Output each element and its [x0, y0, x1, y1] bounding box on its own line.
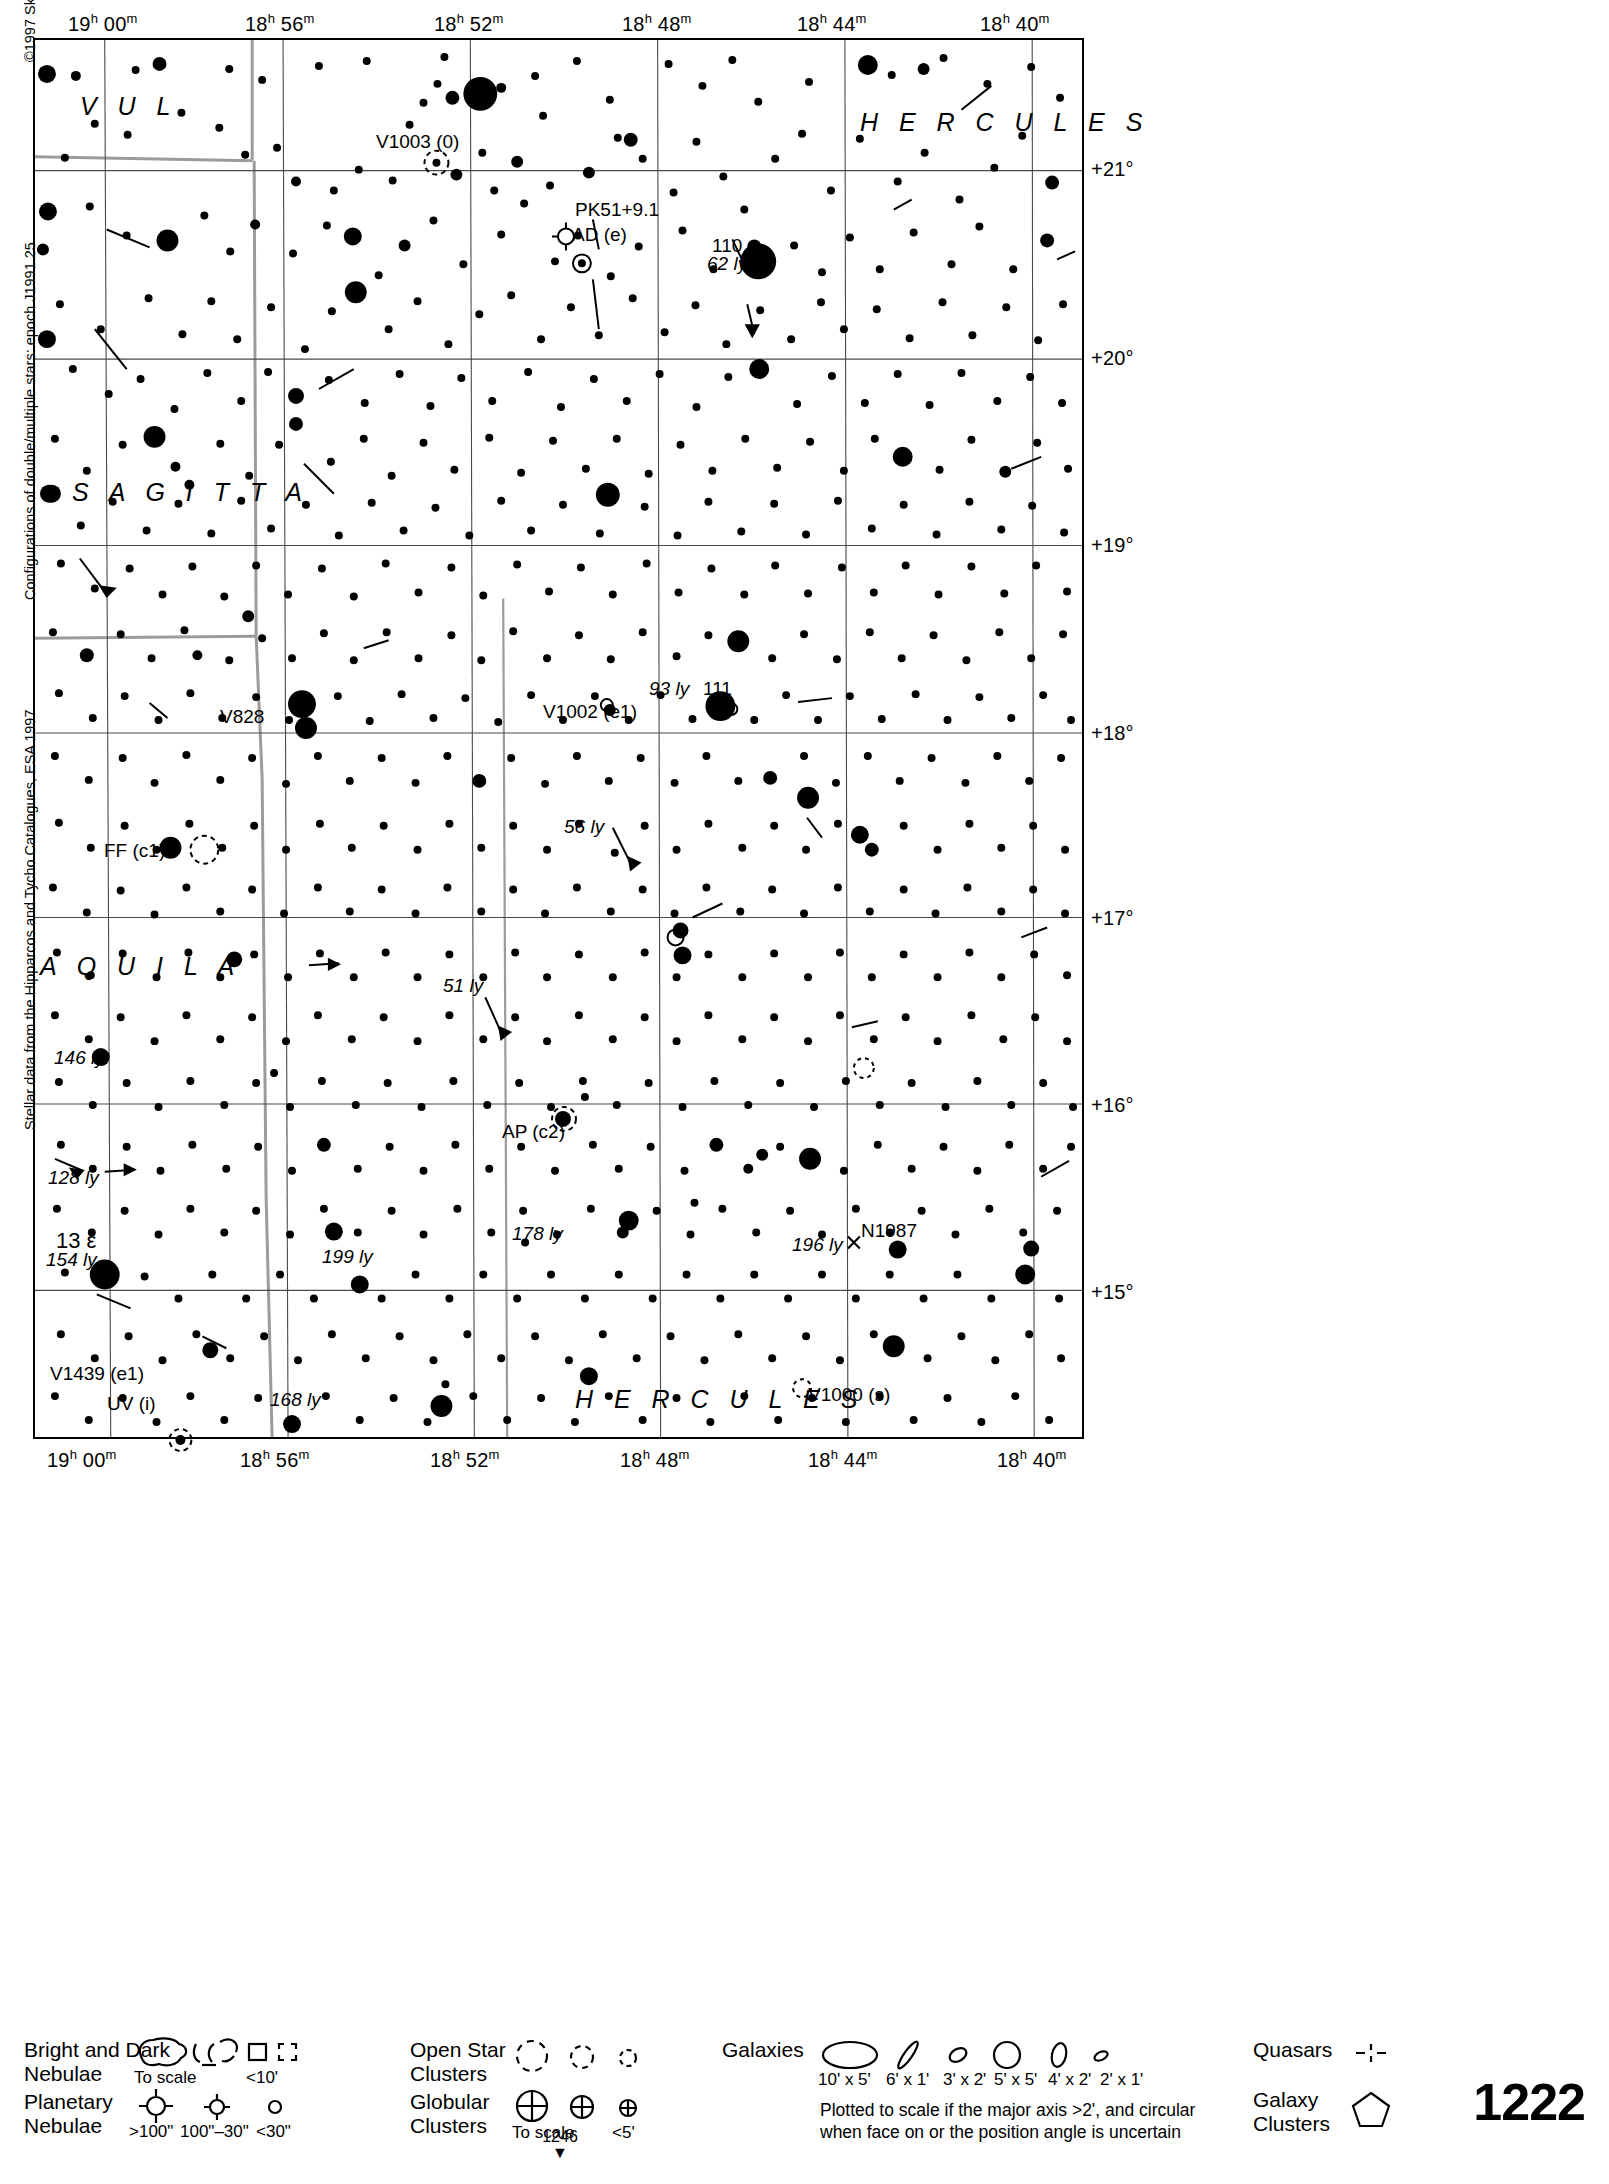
object-label-111: 111 — [703, 679, 732, 699]
ra-tick-label: 18h 40m — [997, 1449, 1067, 1472]
object-label-56ly: 56 ly — [564, 817, 604, 837]
object-label-ff: FF (c1) — [104, 841, 165, 861]
object-label-93ly: 93 ly — [649, 679, 689, 699]
object-label-v1003: V1003 (0) — [376, 132, 459, 152]
legend-nebula-small-caption: <10' — [246, 2068, 278, 2088]
constellation-label-vul: V U L — [80, 92, 178, 121]
legend-quasars-title: Quasars — [1253, 2038, 1332, 2062]
object-label-146ly: 146 ly — [54, 1048, 105, 1068]
legend-open-clusters-title: Open Star Clusters — [410, 2038, 506, 2085]
dec-tick-label: +17° — [1091, 907, 1134, 930]
dec-tick-label: +21° — [1091, 158, 1134, 181]
page-reference: 1246 ▼ — [530, 2128, 590, 2160]
chart-legend: Bright and Dark Nebulae To scale <10' Pl… — [0, 2030, 1609, 2170]
ra-tick-label: 19h 00m — [68, 13, 138, 36]
dark-nebula-square-icon — [275, 2040, 301, 2064]
galaxy-cluster-icon — [1348, 2088, 1394, 2130]
planetary-nebula-mid-icon — [196, 2090, 238, 2124]
globular-cluster-large-icon — [510, 2086, 554, 2126]
ra-tick-label: 18h 52m — [434, 13, 504, 36]
object-label-pk51: PK51+9.1 — [575, 200, 659, 220]
legend-quasars: Quasars — [1253, 2038, 1332, 2062]
object-label-154ly: 154 ly — [46, 1250, 97, 1270]
ra-tick-label: 18h 48m — [620, 1449, 690, 1472]
ra-tick-label: 18h 48m — [622, 13, 692, 36]
legend-planetary-title: Planetary Nebulae — [24, 2090, 113, 2137]
object-label-178ly: 178 ly — [512, 1224, 563, 1244]
dec-tick-label: +18° — [1091, 722, 1134, 745]
ra-tick-label: 18h 44m — [797, 13, 867, 36]
object-label-v1000: V1000 (s) — [808, 1385, 890, 1405]
legend-galaxy-clusters: Galaxy Clusters — [1253, 2088, 1330, 2135]
object-label-196ly: 196 ly — [792, 1235, 843, 1255]
object-label-v828: V828 — [220, 707, 264, 727]
page-reference-number: 1246 — [542, 2128, 578, 2145]
constellation-label-hercules-top: H E R C U L E S — [860, 108, 1149, 137]
galaxy-2x1-icon — [1086, 2042, 1116, 2070]
constellation-label-aquila: A Q U I L A — [40, 952, 241, 981]
open-cluster-mid-icon — [564, 2040, 600, 2074]
copyright-notice: ©1997 Sky Publishing Corporation — [22, 0, 38, 62]
planetary-nebula-large-icon — [132, 2086, 180, 2126]
dec-tick-label: +15° — [1091, 1281, 1134, 1304]
object-label-112: 112 — [466, 83, 496, 103]
legend-planetary-nebulae: Planetary Nebulae — [24, 2090, 113, 2137]
ra-tick-label: 18h 56m — [240, 1449, 310, 1472]
legend-galaxy-clusters-title: Galaxy Clusters — [1253, 2088, 1330, 2135]
variable-star-markers — [169, 151, 873, 1451]
legend-galaxy-size-5: 2' x 1' — [1100, 2070, 1143, 2090]
ra-tick-label: 18h 44m — [808, 1449, 878, 1472]
object-label-199ly: 199 ly — [322, 1247, 373, 1267]
legend-galaxy-size-1: 6' x 1' — [886, 2070, 929, 2090]
object-label-168ly: 168 ly — [270, 1390, 321, 1410]
legend-galaxy-size-4: 4' x 2' — [1048, 2070, 1091, 2090]
legend-planetary-small-caption: <30" — [256, 2122, 291, 2142]
open-cluster-large-icon — [510, 2036, 554, 2076]
dec-tick-label: +19° — [1091, 534, 1134, 557]
object-label-51ly: 51 ly — [443, 976, 483, 996]
legend-galaxies-note: Plotted to scale if the major axis >2', … — [820, 2100, 1195, 2144]
object-label-n1987: N1987 — [861, 1221, 917, 1241]
legend-globular-clusters: Globular Clusters — [410, 2090, 489, 2137]
open-cluster-small-icon — [614, 2044, 642, 2072]
galaxy-4x2-icon — [1042, 2038, 1076, 2072]
epoch-credit: Configurations of double/multiple stars:… — [22, 242, 38, 600]
galaxy-10x5-icon — [818, 2038, 882, 2072]
legend-galaxy-size-3: 5' x 5' — [994, 2070, 1037, 2090]
planetary-nebula-small-icon — [260, 2092, 290, 2122]
data-source-credit: Stellar data from the Hipparcos and Tych… — [22, 710, 38, 1131]
object-label-ad: AD (e) — [572, 225, 627, 245]
globular-cluster-mid-icon — [564, 2090, 600, 2124]
legend-globular-clusters-title: Globular Clusters — [410, 2090, 489, 2137]
down-arrow-icon: ▼ — [530, 2147, 590, 2160]
legend-globular-small-caption: <5' — [612, 2123, 635, 2143]
chart-number: 1222 — [1473, 2072, 1585, 2132]
legend-planetary-large-caption: >100" — [129, 2122, 173, 2142]
constellation-label-sagitta: S A G I T T A — [72, 478, 309, 507]
ra-tick-label: 19h 00m — [47, 1449, 117, 1472]
nebula-to-scale-icon — [131, 2034, 193, 2070]
quasar-icon — [1352, 2038, 1390, 2068]
object-label-62ly: 62 ly — [707, 254, 747, 274]
legend-nebula-to-scale-caption: To scale — [134, 2068, 196, 2088]
dec-tick-label: +20° — [1091, 347, 1134, 370]
ra-tick-label: 18h 40m — [980, 13, 1050, 36]
galaxy-5x5-icon — [986, 2038, 1028, 2072]
ra-tick-label: 18h 52m — [430, 1449, 500, 1472]
object-label-v1002: V1002 (e1) — [543, 702, 637, 722]
dark-nebula-icon — [186, 2034, 246, 2070]
legend-galaxy-size-0: 10' x 5' — [818, 2070, 871, 2090]
legend-galaxies: Galaxies — [722, 2038, 804, 2062]
globular-cluster-small-icon — [614, 2094, 642, 2122]
object-label-128ly: 128 ly — [48, 1168, 99, 1188]
legend-planetary-mid-caption: 100"–30" — [180, 2122, 249, 2142]
galaxy-marker — [848, 1237, 860, 1249]
object-label-uv: UV (i) — [107, 1394, 156, 1414]
galaxy-6x1-icon — [888, 2038, 928, 2072]
legend-open-clusters: Open Star Clusters — [410, 2038, 506, 2085]
ra-tick-label: 18h 56m — [245, 13, 315, 36]
legend-galaxy-size-2: 3' x 2' — [943, 2070, 986, 2090]
object-label-ap: AP (c2) — [502, 1122, 565, 1142]
dec-tick-label: +16° — [1091, 1094, 1134, 1117]
nebula-square-icon — [245, 2040, 271, 2064]
